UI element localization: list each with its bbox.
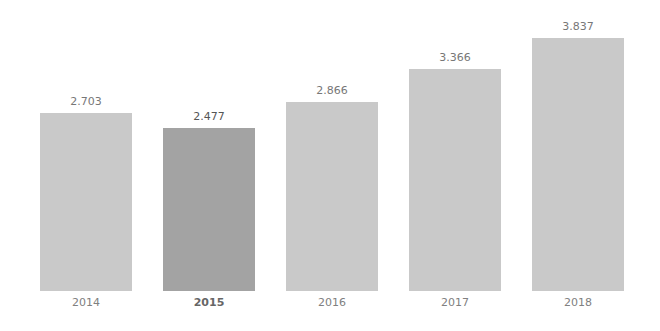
x-axis-label: 2014 bbox=[40, 296, 132, 309]
value-label: 3.366 bbox=[409, 51, 501, 64]
bar-2017: 3.366 bbox=[409, 51, 501, 291]
bar-fill bbox=[286, 102, 378, 291]
bar-2016: 2.866 bbox=[286, 84, 378, 291]
bar-fill bbox=[163, 128, 255, 291]
value-label: 2.477 bbox=[163, 110, 255, 123]
bar-fill bbox=[409, 69, 501, 291]
bar-2014: 2.703 bbox=[40, 95, 132, 291]
x-axis-label: 2017 bbox=[409, 296, 501, 309]
x-axis-label: 2018 bbox=[532, 296, 624, 309]
bar-2018: 3.837 bbox=[532, 20, 624, 291]
bar-chart: 2.70320142.47720152.86620163.36620173.83… bbox=[0, 0, 660, 331]
bar-2015: 2.477 bbox=[163, 110, 255, 291]
x-axis-label: 2015 bbox=[163, 296, 255, 309]
bar-fill bbox=[532, 38, 624, 291]
value-label: 2.866 bbox=[286, 84, 378, 97]
bar-fill bbox=[40, 113, 132, 291]
value-label: 2.703 bbox=[40, 95, 132, 108]
value-label: 3.837 bbox=[532, 20, 624, 33]
x-axis-label: 2016 bbox=[286, 296, 378, 309]
